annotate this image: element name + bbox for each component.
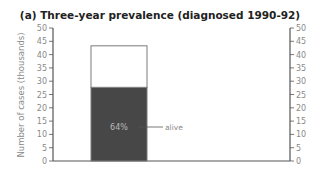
right-tick-label: 45 — [296, 37, 306, 46]
right-tick-label: 25 — [296, 91, 306, 100]
stacked-bar — [91, 46, 147, 161]
left-tick-label: 50 — [37, 24, 47, 33]
left-tick-label: 30 — [37, 77, 47, 86]
left-y-axis: 05101520253035404550 — [37, 24, 53, 166]
right-tick-label: 0 — [296, 157, 301, 166]
left-tick-label: 10 — [37, 130, 47, 139]
alive-percentage-label: 64% — [110, 123, 128, 132]
left-tick-label: 15 — [37, 117, 47, 126]
right-tick-label: 50 — [296, 24, 306, 33]
left-tick-label: 20 — [37, 104, 47, 113]
right-tick-label: 40 — [296, 51, 306, 60]
y-axis-label: Number of cases (thousands) — [16, 32, 26, 157]
right-tick-label: 20 — [296, 104, 306, 113]
alive-series-label: alive — [165, 123, 183, 132]
left-tick-label: 5 — [42, 144, 47, 153]
left-tick-label: 40 — [37, 51, 47, 60]
prevalence-chart: (a) Three-year prevalence (diagnosed 199… — [0, 0, 327, 178]
left-tick-label: 0 — [42, 157, 47, 166]
right-tick-label: 15 — [296, 117, 306, 126]
chart-title: (a) Three-year prevalence (diagnosed 199… — [20, 9, 300, 21]
left-tick-label: 35 — [37, 64, 47, 73]
right-tick-label: 35 — [296, 64, 306, 73]
right-tick-label: 10 — [296, 130, 306, 139]
left-tick-label: 45 — [37, 37, 47, 46]
right-tick-label: 5 — [296, 144, 301, 153]
right-y-axis: 05101520253035404550 — [290, 24, 306, 166]
bar-segment-other — [91, 46, 147, 87]
right-tick-label: 30 — [296, 77, 306, 86]
left-tick-label: 25 — [37, 91, 47, 100]
